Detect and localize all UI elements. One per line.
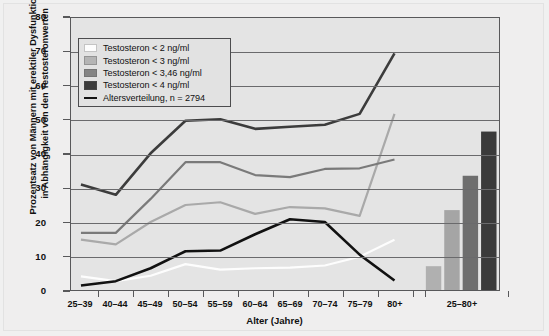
chart-legend: Testosteron < 2 ng/mlTestosteron < 3 ng/… <box>78 38 231 107</box>
gridline <box>71 155 499 156</box>
x-axis-tick-mark <box>203 291 204 297</box>
y-axis-tick-label: 0 <box>18 285 46 296</box>
legend-item: Testosteron < 3,46 ng/ml <box>84 67 225 79</box>
legend-item-label: Testosteron < 4 ng/ml <box>103 80 189 90</box>
legend-item: Testosteron < 2 ng/ml <box>84 42 225 54</box>
x-axis-tick-mark <box>508 291 509 297</box>
y-axis-tick-label: 20 <box>18 217 46 228</box>
legend-color-swatch <box>84 81 97 90</box>
x-axis-tick-mark <box>98 291 99 297</box>
y-axis-tick-mark <box>63 119 70 120</box>
y-axis-tick-label: 50 <box>18 114 46 125</box>
y-axis-tick-mark <box>63 222 70 223</box>
data-series-line <box>81 159 395 232</box>
y-axis-tick-label: 10 <box>18 251 46 262</box>
legend-color-swatch <box>84 69 97 78</box>
y-axis-tick-mark <box>63 153 70 154</box>
legend-item: Testosteron < 4 ng/ml <box>84 79 225 91</box>
chart-figure: Prozentsatz von Männern mit erektiler Dy… <box>0 0 549 336</box>
y-axis-tick-mark <box>63 290 70 291</box>
x-axis-tick-mark <box>238 291 239 297</box>
x-axis-tick-label: 65–69 <box>277 299 302 309</box>
x-axis-tick-label: 75–79 <box>347 299 372 309</box>
y-axis-tick-mark <box>63 85 70 86</box>
data-series-line <box>81 240 395 281</box>
x-axis-tick-mark <box>308 291 309 297</box>
x-axis-tick-mark <box>168 291 169 297</box>
y-axis-tick-mark <box>63 51 70 52</box>
y-axis-tick-label: 40 <box>18 148 46 159</box>
x-axis-tick-label: 80+ <box>387 299 402 309</box>
data-series-line <box>81 219 395 285</box>
x-axis-tick-mark <box>378 291 379 297</box>
legend-item-label: Altersverteilung, n = 2794 <box>103 93 205 103</box>
gridline <box>71 189 499 190</box>
summary-bar <box>426 266 441 290</box>
x-axis-tick-label: 50–54 <box>172 299 197 309</box>
legend-item-label: Testosteron < 2 ng/ml <box>103 43 189 53</box>
x-axis-tick-label: 40–44 <box>102 299 127 309</box>
x-axis-title: Alter (Jahre) <box>0 315 549 326</box>
gridline <box>71 120 499 121</box>
legend-item: Altersverteilung, n = 2794 <box>84 92 225 104</box>
legend-line-swatch <box>84 94 97 103</box>
y-axis-tick-label: 70 <box>18 45 46 56</box>
x-axis-tick-mark <box>273 291 274 297</box>
gridline <box>71 223 499 224</box>
y-axis-tick-label: 80 <box>18 11 46 22</box>
legend-item-label: Testosteron < 3 ng/ml <box>103 56 189 66</box>
x-axis-tick-label: 55–59 <box>207 299 232 309</box>
y-axis-tick-mark <box>63 16 70 17</box>
x-axis-tick-mark <box>343 291 344 297</box>
x-axis-tick-label: 25–39 <box>67 299 92 309</box>
y-axis-tick-mark <box>63 256 70 257</box>
y-axis-tick-label: 60 <box>18 80 46 91</box>
x-axis-tick-label: 60–64 <box>242 299 267 309</box>
x-axis-tick-mark <box>425 291 426 297</box>
legend-color-swatch <box>84 44 97 53</box>
y-axis-tick-label: 30 <box>18 182 46 193</box>
gridline <box>71 257 499 258</box>
legend-color-swatch <box>84 56 97 65</box>
legend-item: Testosteron < 3 ng/ml <box>84 54 225 66</box>
legend-item-label: Testosteron < 3,46 ng/ml <box>103 68 202 78</box>
summary-bar <box>463 176 478 290</box>
x-axis-tick-mark <box>133 291 134 297</box>
x-axis-tick-mark <box>413 291 414 297</box>
x-axis-tick-label-bar-group: 25–80+ <box>447 299 477 309</box>
x-axis-tick-label: 70–74 <box>312 299 337 309</box>
x-axis-tick-label: 45–49 <box>137 299 162 309</box>
y-axis-tick-mark <box>63 188 70 189</box>
